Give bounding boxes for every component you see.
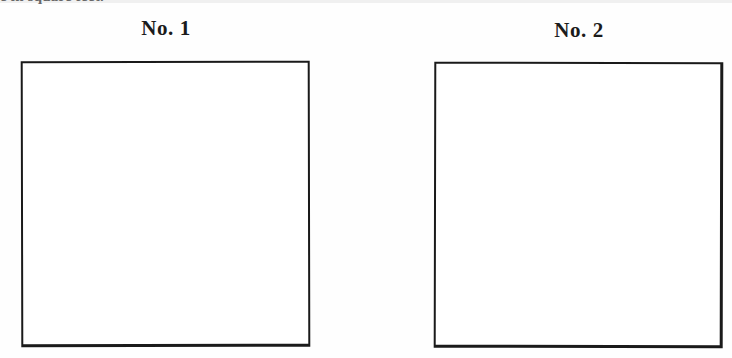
clipped-body-text: e in square feet. (0, 0, 300, 8)
scanned-page: e in square feet. No. 1 No. 2 (0, 0, 732, 358)
box-heading-no-2: No. 2 (435, 18, 723, 43)
answer-box-no-1[interactable] (21, 61, 311, 348)
box-heading-no-1: No. 1 (22, 16, 310, 41)
answer-box-no-2[interactable] (434, 62, 724, 349)
